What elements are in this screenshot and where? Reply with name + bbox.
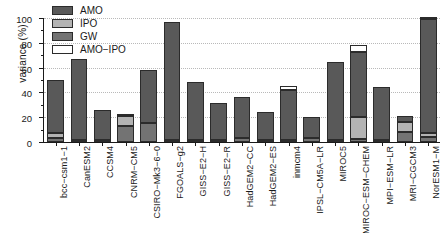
bar-segment [117,114,134,116]
bar-segment [397,132,414,142]
x-axis-tick-label: MIROC5 [338,146,348,182]
bar-segment [210,103,227,140]
bar-segment [164,22,181,140]
legend-swatch [52,32,73,41]
bar-segment [420,19,437,133]
bar[interactable] [210,18,227,142]
x-axis-tick-label: HadGEM2−CC [245,146,255,207]
bar-segment [47,80,64,133]
bar-segment [420,17,437,19]
x-axis-tick-label: IPSL−CM5A−LR [315,146,325,214]
bar[interactable] [234,18,251,142]
legend-item[interactable]: AMO−IPO [52,43,126,55]
chart-legend: AMOIPOGWAMO−IPO [52,4,126,56]
bar[interactable] [303,18,320,142]
bar-segment [373,87,390,140]
x-axis-tick [126,142,127,146]
x-axis-tick-label: FGOALS−g2 [175,146,185,199]
x-axis-tick-label: MIROC−ESM−CHEM [361,146,371,233]
x-axis-tick [265,142,266,146]
y-axis-tick: 0 [39,142,44,143]
x-axis-tick [335,142,336,146]
x-axis-tick [428,142,429,146]
y-axis-minor-tick [41,30,44,31]
x-axis-tick-label: GISS−E2−H [198,146,208,196]
bar-segment [420,133,437,137]
bar[interactable] [350,18,367,142]
bar[interactable] [373,18,390,142]
x-axis-tick [79,142,80,146]
legend-item[interactable]: GW [52,30,126,42]
x-axis-tick-label: inmcm4 [292,146,302,178]
bar[interactable] [280,18,297,142]
x-axis-tick [195,142,196,146]
bar-segment [397,116,414,122]
bar-segment [71,59,88,140]
bar-segment [117,116,134,126]
x-axis-tick [289,142,290,146]
y-axis-tick-label: 80 [21,38,32,49]
x-axis-tick [312,142,313,146]
y-axis-tick-label: 40 [21,88,32,99]
legend-item[interactable]: IPO [52,17,126,29]
legend-swatch [52,19,73,28]
y-axis-minor-tick [41,80,44,81]
bar[interactable] [397,18,414,142]
bar-segment [140,123,157,142]
y-axis-tick-label: 60 [21,63,32,74]
x-axis-tick-label: MRI−CGCM3 [408,146,418,201]
bar-segment [350,52,367,116]
legend-item[interactable]: AMO [52,4,126,16]
bar-segment [187,82,204,140]
y-axis-tick: 80 [39,43,44,44]
legend-label: AMO−IPO [80,44,126,55]
x-axis-tick-label: CNRM−CM5 [129,146,139,198]
x-axis-tick-label: NorESM1−M [431,146,441,199]
y-axis-minor-tick [41,55,44,56]
bar-segment [140,70,157,123]
y-axis-minor-tick [41,105,44,106]
bar[interactable] [140,18,157,142]
x-axis-tick-label: CCSM4 [105,146,115,178]
y-axis-tick-label: 0 [27,138,32,149]
bar-segment [303,117,320,137]
chart-figure: variance (%) 020406080100 AMOIPOGWAMO−IP… [0,0,445,233]
bar[interactable] [164,18,181,142]
legend-label: GW [80,31,97,42]
x-axis-tick [358,142,359,146]
bar[interactable] [257,18,274,142]
legend-label: IPO [80,18,97,29]
y-axis-tick-label: 100 [16,14,32,25]
x-axis-tick [56,142,57,146]
x-axis-tick [149,142,150,146]
bar[interactable] [327,18,344,142]
bar-segment [257,112,274,141]
legend-swatch [52,6,73,15]
bar-segment [327,62,344,140]
x-axis-tick [102,142,103,146]
y-axis-tick: 20 [39,117,44,118]
x-axis-tick-label: MPI−ESM−LR [385,146,395,205]
y-axis-minor-tick [41,130,44,131]
x-axis-tick-label: CanESM2 [82,146,92,188]
bar-segment [47,133,64,138]
bar[interactable] [420,18,437,142]
y-axis-tick: 100 [39,18,44,19]
x-axis-tick [382,142,383,146]
bar-segment [234,97,251,138]
x-axis-tick [242,142,243,146]
legend-swatch [52,45,73,54]
y-axis-tick-label: 20 [21,113,32,124]
bar-segment [397,122,414,132]
bar-segment [350,117,367,139]
x-axis-tick-label: CSIRO−Mk3−6−0 [152,146,162,219]
bar-segment [280,86,297,90]
x-axis-tick [219,142,220,146]
x-axis-tick-label: GISS−E2−R [222,146,232,196]
y-axis-tick: 60 [39,68,44,69]
y-axis-tick: 40 [39,92,44,93]
legend-label: AMO [80,5,103,16]
bar[interactable] [187,18,204,142]
x-axis-tick [172,142,173,146]
bar-segment [350,45,367,52]
